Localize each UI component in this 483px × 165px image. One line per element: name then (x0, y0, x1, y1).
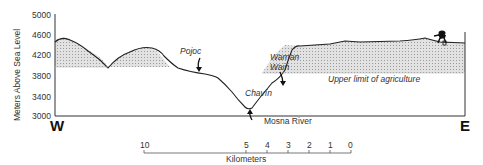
y-tick: 4600 (23, 30, 51, 40)
east-label: E (460, 117, 470, 134)
y-tick: 5000 (23, 10, 51, 20)
elevation-cross-section: Meters Above Sea Level 5000 4600 4200 38… (0, 0, 483, 165)
scale-tick: 3 (286, 140, 291, 150)
shaded-highland-west-2 (108, 48, 170, 68)
chavin-label: Chavín (245, 88, 272, 98)
agriculture-limit-label: Upper limit of agriculture (328, 74, 420, 84)
west-label: W (50, 117, 64, 134)
mosna-river-label: Mosna River (264, 116, 312, 126)
scale-tick: 10 (140, 140, 149, 150)
y-tick: 3800 (23, 71, 51, 81)
scale-tick: 1 (328, 140, 333, 150)
scale-tick: 2 (307, 140, 312, 150)
waman-wain-label-2: Wain (270, 62, 289, 72)
y-tick: 3000 (23, 111, 51, 121)
waman-wain-label-1: Waman (270, 52, 299, 62)
y-tick: 4200 (23, 50, 51, 60)
scale-tick: 5 (244, 140, 249, 150)
shaded-highland-west (55, 38, 108, 68)
y-tick: 3400 (23, 92, 51, 102)
scale-bar-label: Kilometers (226, 154, 266, 164)
scale-tick: 4 (265, 140, 270, 150)
scale-tick: 0 (348, 140, 353, 150)
y-axis-label: Meters Above Sea Level (12, 20, 22, 130)
pojoc-label: Pojoc (180, 46, 201, 56)
